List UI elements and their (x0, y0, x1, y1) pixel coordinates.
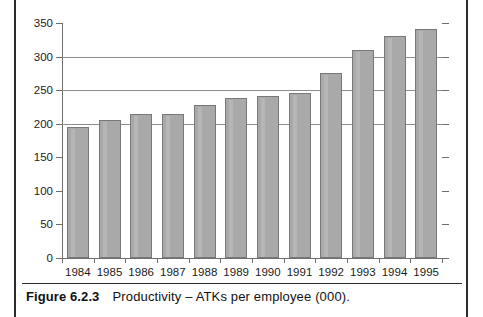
y-axis-label: 0 (47, 252, 53, 264)
bar-1984 (67, 127, 89, 258)
y-axis-tick-right (442, 23, 449, 24)
y-axis-tick (56, 157, 62, 158)
x-axis-tick (94, 258, 95, 263)
x-axis-label-1995: 1995 (404, 266, 448, 278)
y-axis-tick-right (442, 258, 449, 259)
caption-label: Figure 6.2.3 (26, 289, 99, 304)
x-axis-tick (157, 258, 158, 263)
x-axis-line (62, 258, 444, 259)
bar-1988 (194, 105, 216, 258)
y-axis-label: 350 (34, 17, 53, 29)
page-edge-rule-right (466, 0, 468, 317)
page-edge-rule-left (14, 0, 16, 317)
y-axis-tick-right (442, 57, 449, 58)
y-axis-tick-right (442, 224, 449, 225)
bar-1987 (162, 114, 184, 258)
x-axis-tick (189, 258, 190, 263)
y-axis-label: 250 (34, 84, 53, 96)
x-axis-tick (62, 258, 63, 263)
y-axis-tick-right (442, 124, 449, 125)
bar-1991 (289, 93, 311, 258)
bar-1994 (384, 36, 406, 258)
y-axis-tick (56, 23, 62, 24)
y-axis-label: 300 (34, 51, 53, 63)
caption-divider (22, 283, 462, 284)
bar-1990 (257, 96, 279, 258)
x-axis-tick (347, 258, 348, 263)
x-axis-tick (284, 258, 285, 263)
y-axis-tick (56, 90, 62, 91)
x-axis-tick (410, 258, 411, 263)
bar-1992 (320, 73, 342, 258)
y-axis-label: 50 (40, 218, 53, 230)
figure-caption: Figure 6.2.3Productivity – ATKs per empl… (26, 289, 350, 304)
bar-1993 (352, 50, 374, 258)
y-axis-tick (56, 124, 62, 125)
y-axis-tick (56, 57, 62, 58)
bar-chart-plot-area: 0501001502002503003501984198519861987198… (62, 23, 442, 258)
figure-container: 0501001502002503003501984198519861987198… (0, 0, 483, 317)
y-axis-tick-right (442, 90, 449, 91)
y-axis-label: 200 (34, 118, 53, 130)
x-axis-tick (125, 258, 126, 263)
x-axis-tick (220, 258, 221, 263)
bar-1989 (225, 98, 247, 258)
bar-1985 (99, 120, 121, 258)
x-axis-tick (315, 258, 316, 263)
y-axis-tick (56, 191, 62, 192)
y-axis-tick-right (442, 191, 449, 192)
caption-text: Productivity – ATKs per employee (000). (112, 289, 350, 304)
y-axis-label: 100 (34, 185, 53, 197)
bar-1986 (130, 114, 152, 258)
y-axis-tick-right (442, 157, 449, 158)
x-axis-tick (252, 258, 253, 263)
x-axis-tick (442, 258, 443, 263)
x-axis-tick (379, 258, 380, 263)
y-axis-label: 150 (34, 151, 53, 163)
bar-1995 (415, 29, 437, 258)
y-axis-tick (56, 224, 62, 225)
